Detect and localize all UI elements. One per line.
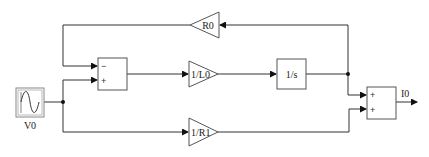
gain-block-l0[interactable]: 1/L0 [189,61,218,87]
wire-to-sum1-plus [63,80,97,102]
gain-block-r0[interactable]: R0 [190,12,219,38]
wire-to-gain-r1 [63,102,188,132]
sum2-plus-sign-1: + [370,90,375,100]
integrator-label: 1/s [286,69,298,80]
gain-block-r1[interactable]: 1/R1 [189,118,218,146]
gain-l0-label: 1/L0 [191,69,210,80]
wire-to-sum2-plus1 [348,74,366,95]
gain-r1-label: 1/R1 [191,127,210,138]
gain-r0-label: R0 [202,20,214,31]
integrator-block[interactable]: 1/s [277,59,306,89]
source-block-v0[interactable]: V0 [16,88,44,131]
block-diagram-canvas: V0 − + R0 1/L0 1/s 1/R1 + + I0 [0,0,429,157]
sum1-minus-sign: − [101,61,106,71]
output-label: I0 [401,88,409,99]
sum1-plus-sign: + [101,76,106,86]
sum2-plus-sign-2: + [370,105,375,115]
sum-block-2[interactable]: + + [367,87,396,119]
wire-to-sum2-plus2 [217,109,366,132]
sum-block-1[interactable]: − + [98,58,127,90]
source-label: V0 [24,120,36,131]
junction-dot [61,100,65,104]
junction-dot [346,72,350,76]
